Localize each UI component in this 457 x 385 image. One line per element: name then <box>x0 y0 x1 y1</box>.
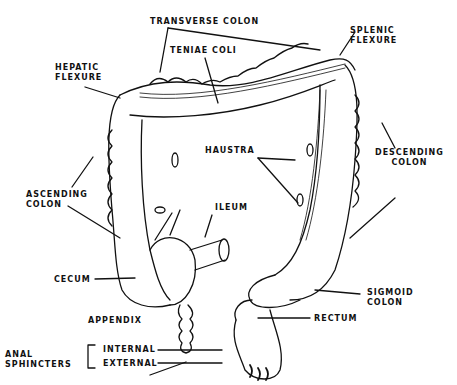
label-ascending-colon: ASCENDINGCOLON <box>26 190 88 210</box>
label-teniae-coli: TENIAE COLI <box>170 46 237 56</box>
label-appendix: APPENDIX <box>88 316 142 326</box>
label-splenic-flexure: SPLENICFLEXURE <box>350 26 397 46</box>
label-rectum: RECTUM <box>314 314 357 324</box>
label-ascending-colon-line2: COLON <box>26 200 62 209</box>
label-haustra: HAUSTRA <box>205 146 255 156</box>
label-cecum: CECUM <box>54 275 91 285</box>
label-hepatic-flexure-line1: HEPATIC <box>55 63 99 72</box>
label-descending-colon: DESCENDINGCOLON <box>375 148 444 168</box>
label-sigmoid-colon-line2: COLON <box>367 298 403 307</box>
label-sigmoid-colon: SIGMOIDCOLON <box>367 288 414 308</box>
label-external-sphincter: EXTERNAL <box>103 359 158 369</box>
label-sigmoid-colon-line1: SIGMOID <box>367 288 414 297</box>
label-ileum: ILEUM <box>215 203 248 213</box>
colon-diagram: TRANSVERSE COLON SPLENICFLEXURE TENIAE C… <box>0 0 457 385</box>
label-anal-sphincters-line1: ANAL <box>5 350 33 359</box>
label-internal-sphincter: INTERNAL <box>103 345 156 355</box>
label-hepatic-flexure: HEPATICFLEXURE <box>55 63 102 83</box>
label-splenic-flexure-line1: SPLENIC <box>350 26 395 35</box>
label-ascending-colon-line1: ASCENDING <box>26 190 88 199</box>
label-hepatic-flexure-line2: FLEXURE <box>55 73 102 82</box>
label-descending-colon-line1: DESCENDING <box>375 148 444 157</box>
label-anal-sphincters: ANALSPHINCTERS <box>5 350 72 370</box>
label-anal-sphincters-line2: SPHINCTERS <box>5 360 72 369</box>
label-splenic-flexure-line2: FLEXURE <box>350 36 397 45</box>
label-descending-colon-line2: COLON <box>391 158 427 167</box>
label-transverse-colon: TRANSVERSE COLON <box>150 17 259 27</box>
